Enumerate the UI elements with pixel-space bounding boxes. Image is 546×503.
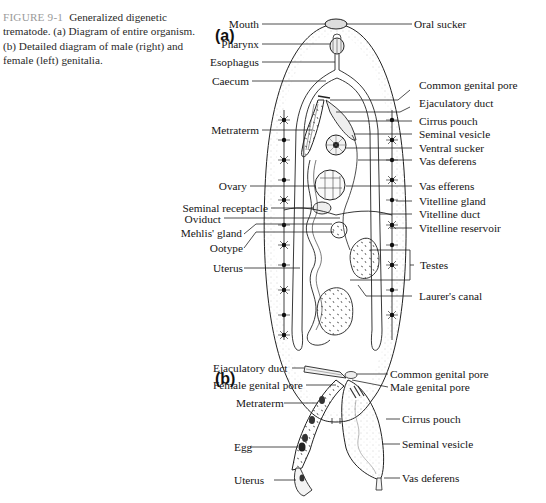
label-vas-deferens: Vas deferens <box>419 155 476 167</box>
label-vas-efferens: Vas efferens <box>419 180 474 192</box>
label-b-egg: Egg <box>234 441 252 453</box>
label-pharynx: Pharynx <box>221 38 259 50</box>
label-vitelline-reservoir: Vitelline reservoir <box>419 222 501 234</box>
label-uterus: Uterus <box>213 262 243 274</box>
label-seminal-vesicle: Seminal vesicle <box>419 128 490 140</box>
label-b-ejaculatory-duct: Ejaculatory duct <box>213 362 287 374</box>
label-caecum: Caecum <box>212 75 249 87</box>
label-b-seminal-vesicle: Seminal vesicle <box>402 438 473 450</box>
label-vitelline-duct: Vitelline duct <box>419 208 480 220</box>
label-metraterm: Metraterm <box>211 124 259 136</box>
label-esophagus: Esophagus <box>210 56 259 68</box>
label-b-cirrus-pouch: Cirrus pouch <box>402 413 461 425</box>
label-vitelline-gland: Vitelline gland <box>419 195 486 207</box>
label-oral-sucker: Oral sucker <box>414 18 466 30</box>
label-testes: Testes <box>420 259 448 271</box>
label-ejaculatory-duct: Ejaculatory duct <box>419 97 493 109</box>
label-ventral-sucker: Ventral sucker <box>419 142 484 154</box>
label-b-common-genital-pore: Common genital pore <box>390 368 489 380</box>
label-common-genital-pore: Common genital pore <box>419 79 518 91</box>
label-oviduct: Oviduct <box>185 213 221 225</box>
label-b-male-genital-pore: Male genital pore <box>390 381 470 393</box>
label-laurers-canal: Laurer's canal <box>419 290 482 302</box>
label-b-female-genital-pore: Female genital pore <box>213 379 303 391</box>
label-mehlis-gland: Mehlis' gland <box>181 227 242 239</box>
label-b-metraterm: Metraterm <box>236 397 284 409</box>
label-b-vas-deferens: Vas deferens <box>402 472 459 484</box>
label-cirrus-pouch: Cirrus pouch <box>419 115 478 127</box>
label-ovary: Ovary <box>219 180 247 192</box>
label-ootype: Ootype <box>210 242 243 254</box>
trematode-diagram <box>0 0 546 503</box>
label-b-uterus: Uterus <box>234 474 264 486</box>
label-mouth: Mouth <box>229 18 259 30</box>
